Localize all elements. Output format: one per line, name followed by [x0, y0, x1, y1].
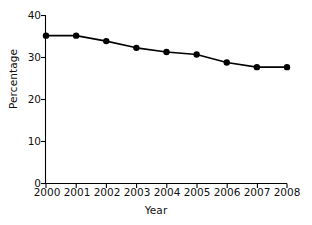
data-point-2005	[193, 51, 199, 57]
data-point-2000	[43, 32, 49, 38]
data-markers-percentage	[43, 32, 290, 70]
data-point-2003	[133, 45, 139, 51]
x-axis-ticks	[46, 184, 287, 189]
data-point-2008	[284, 64, 290, 70]
y-axis-ticks	[41, 16, 46, 184]
line-chart: Percentage Year 40 30 20 10 0 2000 2001 …	[0, 0, 312, 225]
data-point-2001	[73, 32, 79, 38]
plot-area	[0, 0, 312, 225]
data-point-2006	[224, 59, 230, 65]
axes	[45, 15, 287, 184]
data-point-2002	[103, 38, 109, 44]
data-point-2007	[254, 64, 260, 70]
data-point-2004	[163, 49, 169, 55]
